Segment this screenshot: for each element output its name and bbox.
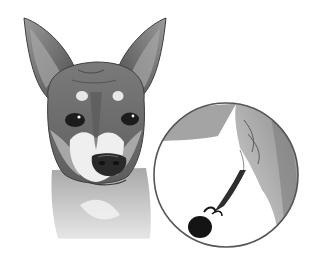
illustration	[0, 0, 317, 270]
tick-icon	[188, 216, 212, 238]
left-brow-spot	[76, 91, 88, 101]
dog-tick-illustration	[0, 0, 317, 270]
magnified-inset	[150, 103, 300, 250]
right-eye	[121, 113, 139, 126]
left-eye	[65, 113, 85, 127]
right-brow-spot	[113, 91, 124, 101]
